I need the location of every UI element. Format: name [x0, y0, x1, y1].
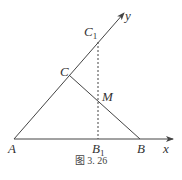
point-label-c: C [60, 64, 69, 79]
axis-label-y: y [123, 8, 131, 23]
point-label-m: M [101, 89, 114, 104]
y-axis [14, 13, 124, 139]
segment-cb [69, 75, 140, 139]
axis-label-x: x [162, 141, 169, 156]
point-label-a: A [7, 141, 16, 156]
point-label-b: B [137, 141, 145, 156]
figure-caption: 图 3. 26 [75, 155, 108, 166]
point-label-c1: C1 [84, 24, 97, 41]
geometry-diagram: y x A B C M C1 B1 图 3. 26 [0, 0, 182, 180]
